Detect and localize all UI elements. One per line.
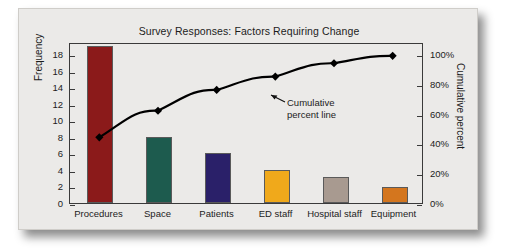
y-tick-label: 4	[33, 165, 63, 176]
y-tick-label: 12	[33, 99, 63, 110]
y2-tick-label: 0%	[430, 198, 444, 209]
y-tick-label: 2	[33, 181, 63, 192]
annotation-label: Cumulative percent line	[287, 97, 336, 120]
cumulative-marker-1	[154, 107, 162, 115]
y2-tick-label: 100%	[430, 49, 454, 60]
y-tick-label: 18	[33, 49, 63, 60]
y-tick-mark	[70, 205, 75, 206]
cumulative-marker-3	[271, 73, 279, 81]
y2-tick-label: 60%	[430, 109, 449, 120]
cumulative-marker-4	[330, 59, 338, 67]
y2-tick-label: 40%	[430, 138, 449, 149]
y-tick-label: 16	[33, 66, 63, 77]
cumulative-marker-5	[389, 52, 397, 60]
cumulative-marker-2	[213, 86, 221, 94]
chart-card: Survey Responses: Factors Requiring Chan…	[18, 8, 478, 230]
y-tick-label: 10	[33, 115, 63, 126]
annotation-line-1: Cumulative	[287, 97, 336, 109]
annotation-line-2: percent line	[287, 109, 336, 121]
plot-area	[69, 43, 423, 204]
secondary-y-axis-title: Cumulative percent	[455, 63, 466, 149]
chart-title: Survey Responses: Factors Requiring Chan…	[19, 25, 479, 37]
y-tick-label: 8	[33, 132, 63, 143]
y2-tick-mark	[417, 205, 422, 206]
x-tick-label: Equipment	[356, 208, 431, 219]
cumulative-percent-line	[70, 44, 422, 204]
screenshot-stage: Survey Responses: Factors Requiring Chan…	[0, 0, 509, 248]
y-tick-label: 0	[33, 198, 63, 209]
y-tick-label: 6	[33, 148, 63, 159]
cumulative-line-path	[99, 56, 392, 138]
y2-tick-label: 20%	[430, 168, 449, 179]
y2-tick-label: 80%	[430, 79, 449, 90]
y-tick-label: 14	[33, 82, 63, 93]
